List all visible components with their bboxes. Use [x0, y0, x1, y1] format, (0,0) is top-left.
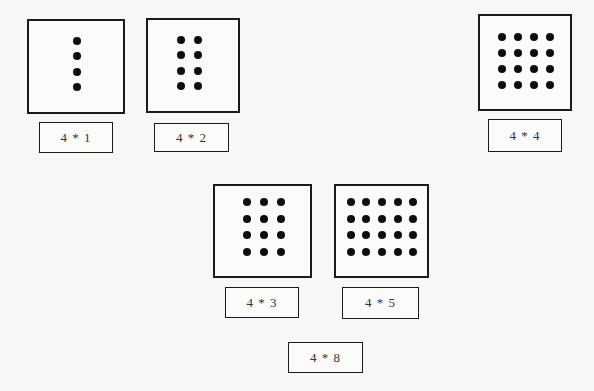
dot [243, 231, 251, 239]
dot [546, 81, 554, 89]
dot-card-4x1 [27, 19, 125, 114]
dot [277, 215, 285, 223]
dot [409, 215, 417, 223]
dot [243, 215, 251, 223]
dot [514, 81, 522, 89]
dot [362, 248, 370, 256]
dot [177, 82, 185, 90]
dot [409, 248, 417, 256]
dot [394, 248, 402, 256]
dot [546, 33, 554, 41]
dot [73, 68, 81, 76]
card-label-4x3: 4 * 3 [225, 287, 299, 318]
dot-grid [172, 32, 206, 94]
dot-grid [239, 194, 289, 260]
dot [73, 37, 81, 45]
dot [194, 82, 202, 90]
dot [530, 65, 538, 73]
dot-grid [69, 33, 85, 95]
extra-label-4x8: 4 * 8 [288, 342, 363, 373]
dot-grid [494, 29, 558, 93]
dot [194, 51, 202, 59]
dot [546, 65, 554, 73]
dot [277, 198, 285, 206]
card-label-4x1: 4 * 1 [39, 122, 113, 153]
dot [347, 248, 355, 256]
dot-grid [343, 194, 421, 260]
card-label-4x5: 4 * 5 [342, 287, 419, 319]
dot [498, 65, 506, 73]
card-label-4x2: 4 * 2 [154, 123, 229, 152]
dot [394, 231, 402, 239]
dot [514, 33, 522, 41]
dot [347, 198, 355, 206]
dot [362, 198, 370, 206]
dot [394, 198, 402, 206]
dot-card-4x3 [213, 184, 312, 278]
dot [530, 49, 538, 57]
dot [378, 215, 386, 223]
dot [362, 231, 370, 239]
dot-card-4x2 [146, 18, 240, 113]
dot [409, 231, 417, 239]
dot [194, 36, 202, 44]
dot [194, 67, 202, 75]
dot [498, 33, 506, 41]
dot [362, 215, 370, 223]
dot [546, 49, 554, 57]
dot [378, 231, 386, 239]
dot [347, 215, 355, 223]
dot [277, 248, 285, 256]
dot [260, 231, 268, 239]
dot [394, 215, 402, 223]
dot [530, 81, 538, 89]
dot [177, 51, 185, 59]
dot [243, 198, 251, 206]
dot [73, 83, 81, 91]
dot [498, 81, 506, 89]
dot [260, 198, 268, 206]
dot [260, 215, 268, 223]
dot [177, 36, 185, 44]
dot [177, 67, 185, 75]
card-label-4x4: 4 * 4 [488, 119, 562, 152]
dot [514, 65, 522, 73]
dot [378, 198, 386, 206]
dot [260, 248, 268, 256]
dot [347, 231, 355, 239]
dot [73, 52, 81, 60]
dot-card-4x5 [334, 184, 429, 278]
dot [514, 49, 522, 57]
dot [530, 33, 538, 41]
dot [498, 49, 506, 57]
dot [409, 198, 417, 206]
dot-card-4x4 [478, 14, 572, 111]
dot [243, 248, 251, 256]
dot [378, 248, 386, 256]
dot [277, 231, 285, 239]
